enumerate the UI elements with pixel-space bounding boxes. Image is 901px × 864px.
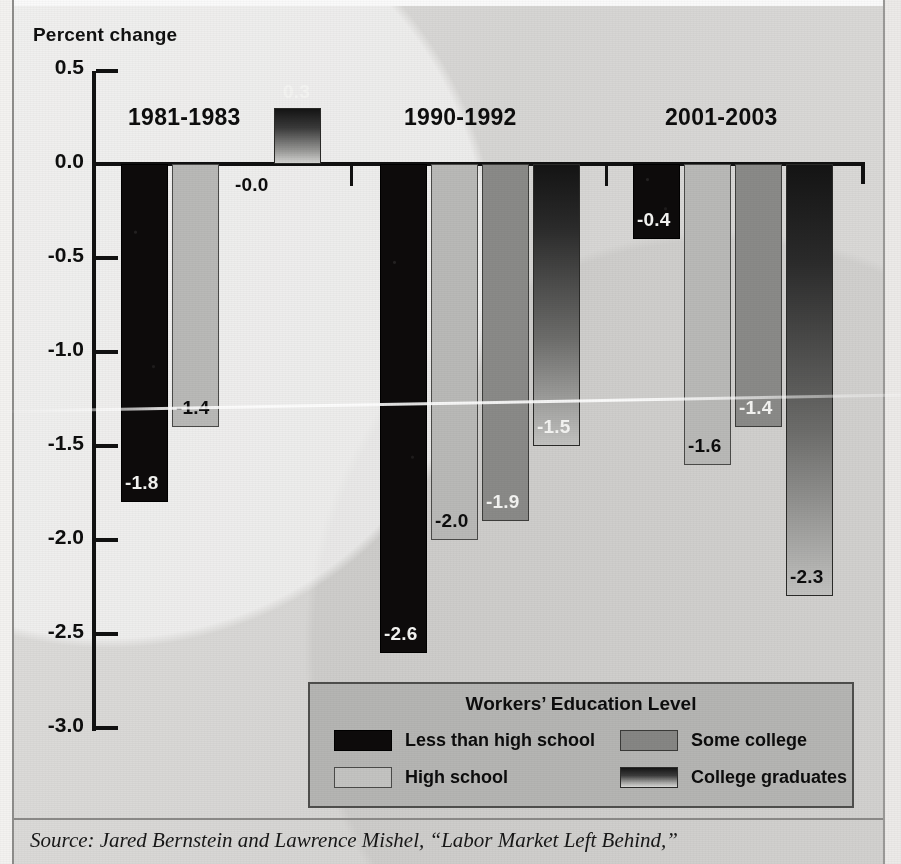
light-gray-swatch-icon xyxy=(334,767,392,788)
bar-0-0 xyxy=(121,164,168,502)
legend: Workers’ Education Level Less than high … xyxy=(308,682,854,808)
y-tick xyxy=(96,632,118,636)
legend-label: Some college xyxy=(691,730,807,751)
y-tick-label: -1.5 xyxy=(8,431,84,455)
bar-value-label: -0.0 xyxy=(235,174,269,196)
source-note: Source: Jared Bernstein and Lawrence Mis… xyxy=(30,828,678,853)
bar-1-1 xyxy=(431,164,478,540)
bar-value-label: -1.9 xyxy=(486,491,520,513)
legend-item-high-school[interactable]: High school xyxy=(334,767,508,788)
medium-gray-swatch-icon xyxy=(620,730,678,751)
y-tick xyxy=(96,444,118,448)
y-tick xyxy=(96,162,118,166)
bar-2-2 xyxy=(735,164,782,427)
legend-item-less-than-high-school[interactable]: Less than high school xyxy=(334,730,595,751)
x-axis-end-tick xyxy=(861,162,865,184)
bar-1-3 xyxy=(533,164,580,446)
bar-value-label: -2.6 xyxy=(384,623,418,645)
y-tick xyxy=(96,350,118,354)
y-tick xyxy=(96,538,118,542)
y-tick-label: 0.5 xyxy=(8,55,84,79)
bar-value-label: -1.4 xyxy=(739,397,773,419)
legend-item-some-college[interactable]: Some college xyxy=(620,730,807,751)
y-tick-label: -0.5 xyxy=(8,243,84,267)
bar-2-1 xyxy=(684,164,731,465)
legend-label: High school xyxy=(405,767,508,788)
y-tick-label: -1.0 xyxy=(8,337,84,361)
y-tick-label: -2.0 xyxy=(8,525,84,549)
bar-value-label: -1.8 xyxy=(125,472,159,494)
bar-0-3 xyxy=(274,108,321,164)
bar-value-label: -1.6 xyxy=(688,435,722,457)
black-swatch-icon xyxy=(334,730,392,751)
y-tick xyxy=(96,256,118,260)
bar-value-label: -1.5 xyxy=(537,416,571,438)
group-separator-tick xyxy=(350,166,353,186)
bar-value-label: -1.4 xyxy=(176,397,210,419)
bar-1-0 xyxy=(380,164,427,653)
bar-value-label: 0.3 xyxy=(283,81,310,103)
legend-label: Less than high school xyxy=(405,730,595,751)
bar-value-label: -2.0 xyxy=(435,510,469,532)
legend-item-college-graduates[interactable]: College graduates xyxy=(620,767,847,788)
bar-0-1 xyxy=(172,164,219,427)
y-tick-label: -3.0 xyxy=(8,713,84,737)
bar-value-label: -0.4 xyxy=(637,209,671,231)
group-label: 1981-1983 xyxy=(128,104,241,131)
y-tick xyxy=(96,726,118,730)
legend-title: Workers’ Education Level xyxy=(310,693,852,715)
group-label: 2001-2003 xyxy=(665,104,778,131)
gradient-swatch-icon xyxy=(620,767,678,788)
bar-2-3 xyxy=(786,164,833,596)
y-tick-label: 0.0 xyxy=(8,149,84,173)
bar-value-label: -2.3 xyxy=(790,566,824,588)
group-label: 1990-1992 xyxy=(404,104,517,131)
group-separator-tick xyxy=(605,166,608,186)
chart-page: Percent change 0.50.0-0.5-1.0-1.5-2.0-2.… xyxy=(0,0,901,864)
y-tick-label: -2.5 xyxy=(8,619,84,643)
y-tick-top xyxy=(96,69,118,73)
bar-1-2 xyxy=(482,164,529,521)
legend-label: College graduates xyxy=(691,767,847,788)
